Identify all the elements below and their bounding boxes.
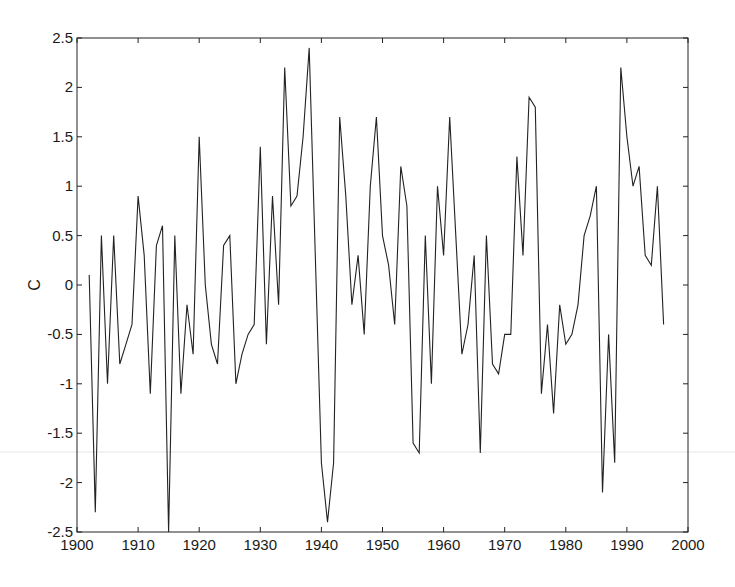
line-chart-figure: -2.5-2-1.5-1-0.500.511.522.5 19001910192… (0, 0, 735, 587)
plot-area-frame (77, 38, 688, 532)
x-tick-label: 1900 (60, 536, 93, 553)
x-tick-label: 1940 (305, 536, 338, 553)
x-tick-label: 1980 (549, 536, 582, 553)
x-tick-label: 1990 (610, 536, 643, 553)
x-tick-label: 1920 (183, 536, 216, 553)
y-tick-label: -1.5 (47, 424, 73, 441)
x-tick-label: 1910 (121, 536, 154, 553)
y-axis-ticks: -2.5-2-1.5-1-0.500.511.522.5 (47, 29, 688, 540)
y-tick-label: 1 (65, 177, 73, 194)
x-tick-label: 1970 (488, 536, 521, 553)
y-tick-label: 1.5 (52, 128, 73, 145)
x-axis-ticks: 1900191019201930194019501960197019801990… (60, 38, 704, 553)
chart-canvas: -2.5-2-1.5-1-0.500.511.522.5 19001910192… (0, 0, 735, 587)
y-tick-label: 2 (65, 78, 73, 95)
x-tick-label: 1930 (244, 536, 277, 553)
data-series-line (89, 48, 663, 532)
x-tick-label: 1950 (366, 536, 399, 553)
y-tick-label: 0.5 (52, 227, 73, 244)
x-tick-label: 2000 (671, 536, 704, 553)
y-tick-label: 2.5 (52, 29, 73, 46)
x-tick-label: 1960 (427, 536, 460, 553)
y-tick-label: 0 (65, 276, 73, 293)
y-tick-label: -1 (60, 375, 73, 392)
y-tick-label: -2 (60, 474, 73, 491)
y-axis-label: C (26, 279, 43, 291)
y-tick-label: -0.5 (47, 325, 73, 342)
